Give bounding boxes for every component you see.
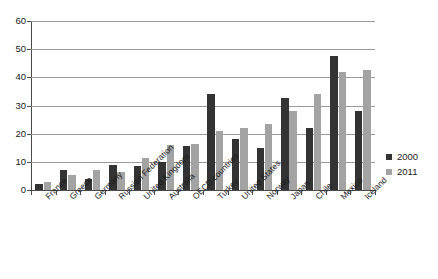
x-tick-mark (228, 191, 229, 195)
x-tick-label: Greece (68, 175, 94, 201)
legend-label: 2011 (397, 167, 417, 177)
bar-chart: 0102030405060 FranceGreeceGermanyRussian… (0, 0, 438, 279)
x-tick-mark (178, 191, 179, 195)
x-tick-mark (129, 191, 130, 195)
x-tick-mark (252, 191, 253, 195)
legend-swatch-icon (386, 169, 392, 175)
x-tick-label: Iceland (363, 176, 388, 201)
x-tick-label: France (44, 176, 69, 201)
x-tick-mark (350, 191, 351, 195)
x-tick-mark (80, 191, 81, 195)
x-tick-mark (154, 191, 155, 195)
x-tick-label: Chile (314, 181, 334, 201)
legend-item-2000[interactable]: 2000 (386, 149, 438, 164)
chart-legend: 20002011 (386, 149, 438, 179)
x-tick-mark (56, 191, 57, 195)
x-tick-label: Japan (289, 179, 311, 201)
x-tick-mark (203, 191, 204, 195)
x-tick-mark (105, 191, 106, 195)
x-tick-label: Mexico (339, 176, 364, 201)
legend-item-2011[interactable]: 2011 (386, 164, 438, 179)
x-tick-mark (326, 191, 327, 195)
x-tick-label: Turkey (216, 177, 240, 201)
x-axis: FranceGreeceGermanyRussian FederationUni… (0, 0, 438, 279)
x-tick-mark (277, 191, 278, 195)
x-tick-mark (301, 191, 302, 195)
legend-swatch-icon (386, 154, 392, 160)
x-tick-mark (375, 191, 376, 195)
legend-label: 2000 (397, 152, 418, 162)
x-tick-mark (31, 191, 32, 195)
